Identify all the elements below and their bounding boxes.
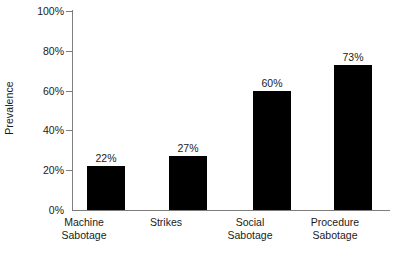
- bar-value-label: 22%: [87, 152, 125, 164]
- y-tick-label: 20%: [20, 165, 64, 176]
- bar: [334, 65, 372, 210]
- bar-chart: Prevalence 0% 20% 40% 60% 80% 100% 22% 2…: [0, 0, 395, 263]
- y-tick-label: 40%: [20, 125, 64, 136]
- plot-area: 22% 27% 60% 73%: [72, 11, 390, 210]
- bar: [87, 166, 125, 210]
- bar: [169, 156, 207, 210]
- x-category-label-line2: Sabotage: [300, 229, 370, 242]
- y-tick-label: 80%: [20, 45, 64, 56]
- bar: [253, 91, 291, 210]
- x-category-label: Procedure Sabotage: [300, 216, 370, 242]
- x-category-label-line1: Machine: [64, 216, 104, 228]
- x-category-label: Social Sabotage: [219, 216, 281, 242]
- y-axis-title-text: Prevalence: [3, 81, 15, 135]
- bar-value-label: 73%: [334, 51, 372, 63]
- x-category-label-line1: Procedure: [311, 216, 359, 228]
- x-category-label: Machine Sabotage: [53, 216, 115, 242]
- x-axis-line: [72, 210, 390, 211]
- bar-value-label: 60%: [253, 77, 291, 89]
- x-category-label: Strikes: [135, 216, 197, 229]
- x-category-label-line2: Sabotage: [219, 229, 281, 242]
- y-tick-label: 0%: [20, 205, 64, 216]
- y-tick-label: 100%: [20, 6, 64, 17]
- bar-value-label: 27%: [169, 142, 207, 154]
- x-category-label-line1: Social: [236, 216, 265, 228]
- y-tick-label: 60%: [20, 85, 64, 96]
- x-category-label-line1: Strikes: [150, 216, 182, 228]
- x-category-label-line2: Sabotage: [53, 229, 115, 242]
